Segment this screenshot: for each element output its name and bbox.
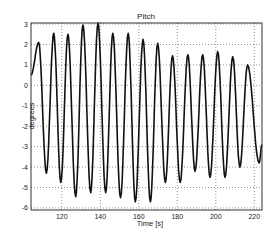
x-tick-label: 180 (171, 213, 183, 220)
y-tick-label: 3 (24, 21, 28, 28)
y-tick-label: -4 (22, 164, 28, 171)
y-tick-label: 0 (24, 82, 28, 89)
pitch-chart: -6-5-4-3-2-10123 120140160180200220 Pitc… (0, 0, 276, 235)
pitch-line (31, 23, 262, 202)
x-axis-label: Time [s] (137, 219, 163, 228)
chart-title: Pitch (137, 12, 155, 21)
y-tick-label: -6 (22, 204, 28, 211)
y-tick-label: -5 (22, 184, 28, 191)
y-tick-label: 2 (24, 41, 28, 48)
y-axis-label: degrees (27, 102, 36, 129)
y-tick-label: 1 (24, 61, 28, 68)
x-tick-label: 220 (248, 213, 260, 220)
x-tick-label: 140 (94, 213, 106, 220)
x-tick-label: 200 (210, 213, 222, 220)
y-tick-label: -3 (22, 143, 28, 150)
pitch-series (31, 23, 262, 202)
x-tick-label: 120 (56, 213, 68, 220)
